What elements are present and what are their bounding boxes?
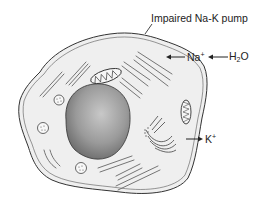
water-label: H2O	[229, 51, 249, 63]
mitochondrion	[181, 100, 191, 124]
sodium-label: Na+	[187, 51, 205, 63]
water-influx-arrow	[208, 55, 228, 60]
cell-diagram: Impaired Na-K pump Na+ H2O K+	[0, 0, 259, 209]
nucleus	[66, 84, 130, 159]
cell-illustration	[0, 0, 259, 209]
pump-leader-line	[145, 24, 152, 34]
potassium-label: K+	[205, 133, 216, 145]
impaired-pump-label: Impaired Na-K pump	[151, 13, 248, 24]
